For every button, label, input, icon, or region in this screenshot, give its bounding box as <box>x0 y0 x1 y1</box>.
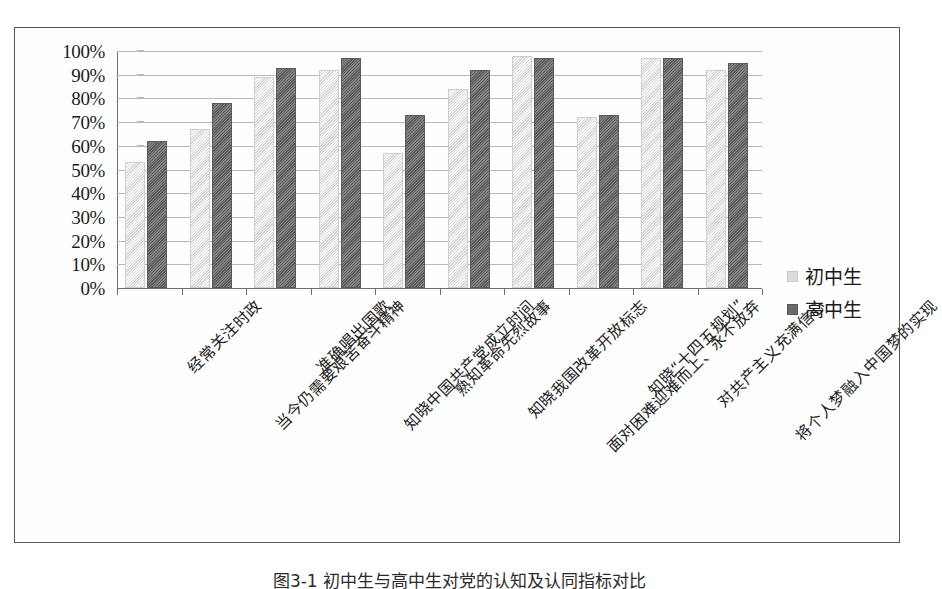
legend-label: 高中生 <box>805 300 862 320</box>
bar <box>341 58 361 288</box>
bar <box>147 141 167 288</box>
bar <box>405 115 425 288</box>
bars-layer <box>117 51 762 288</box>
figure-caption: 图3-1 初中生与高中生对党的认知及认同指标对比 <box>0 570 919 589</box>
y-axis-tick-label: 60% <box>71 136 105 155</box>
bar <box>599 115 619 288</box>
bar <box>534 58 554 288</box>
x-axis-category-label: 准确唱出国歌 <box>314 297 394 377</box>
legend-swatch-icon <box>787 304 798 315</box>
y-axis-tick-label: 100% <box>62 42 105 61</box>
legend-item: 高中生 <box>787 293 893 326</box>
bar <box>706 70 726 288</box>
y-axis-tick-label: 40% <box>71 184 105 203</box>
x-axis-category-label: 经常关注时政 <box>185 297 265 377</box>
bar <box>190 129 210 288</box>
y-axis-tick-label: 50% <box>71 160 105 179</box>
chart-legend: 初中生高中生 <box>787 260 893 326</box>
plot-area <box>117 51 762 288</box>
bar-group <box>375 51 440 288</box>
y-axis-labels: 100%90%80%70%60%50%40%30%20%10%0% <box>41 51 113 288</box>
bar-group <box>569 51 634 288</box>
y-axis-tick-label: 90% <box>71 65 105 84</box>
bar <box>663 58 683 288</box>
y-axis-tick-label: 80% <box>71 89 105 108</box>
bar <box>212 103 232 288</box>
bar <box>448 89 468 288</box>
legend-swatch-icon <box>787 271 798 282</box>
bar <box>512 56 532 288</box>
bar <box>470 70 490 288</box>
y-axis-tick-label: 30% <box>71 207 105 226</box>
y-axis-tick-label: 70% <box>71 113 105 132</box>
bar-group <box>182 51 247 288</box>
bar-group <box>504 51 569 288</box>
y-axis-tick-label: 10% <box>71 255 105 274</box>
bar <box>577 117 597 288</box>
bar <box>319 70 339 288</box>
bar <box>383 153 403 288</box>
bar-group <box>117 51 182 288</box>
chart-frame: 100%90%80%70%60%50%40%30%20%10%0% 经常关注时政… <box>14 27 900 543</box>
x-axis-category-label: 知晓中国共产党成立时间 <box>402 297 538 433</box>
bar-group <box>440 51 505 288</box>
legend-label: 初中生 <box>805 267 862 287</box>
x-axis-category-label: 熟知革命先烈故事 <box>452 297 555 400</box>
bar <box>125 162 145 288</box>
bar-group <box>698 51 763 288</box>
legend-item: 初中生 <box>787 260 893 293</box>
x-axis-category-label: 当今仍需要艰苦奋斗精神 <box>273 297 409 433</box>
bar <box>254 77 274 288</box>
bar-group <box>246 51 311 288</box>
x-axis-category-labels: 经常关注时政当今仍需要艰苦奋斗精神准确唱出国歌知晓中国共产党成立时间熟知革命先烈… <box>15 289 901 519</box>
bar-group <box>311 51 376 288</box>
bar-group <box>633 51 698 288</box>
y-axis-tick-label: 20% <box>71 231 105 250</box>
bar <box>641 58 661 288</box>
bar <box>728 63 748 288</box>
bar <box>276 68 296 288</box>
